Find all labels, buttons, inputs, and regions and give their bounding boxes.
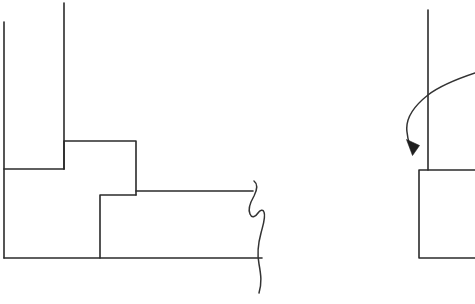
line-drawing-svg [0, 0, 475, 304]
drawing-canvas-root [0, 0, 475, 304]
